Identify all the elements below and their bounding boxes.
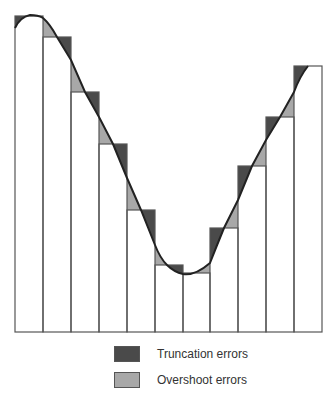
bars xyxy=(15,16,322,332)
overshoot-swatch xyxy=(114,372,140,388)
bar-11 xyxy=(294,66,322,332)
bar-4 xyxy=(99,144,127,332)
bar-3 xyxy=(71,92,99,332)
bar-7 xyxy=(183,273,210,332)
staircase-diagram xyxy=(0,0,335,401)
truncation-swatch xyxy=(114,346,140,362)
bar-6 xyxy=(155,265,183,332)
legend-truncation: Truncation errors xyxy=(0,346,335,366)
legend-label: Truncation errors xyxy=(157,346,248,362)
bar-10 xyxy=(266,117,294,332)
legend-overshoot: Overshoot errors xyxy=(0,372,335,392)
bar-1 xyxy=(15,16,43,332)
legend-label: Overshoot errors xyxy=(157,372,247,388)
bar-2 xyxy=(43,37,71,332)
curve xyxy=(15,15,308,274)
